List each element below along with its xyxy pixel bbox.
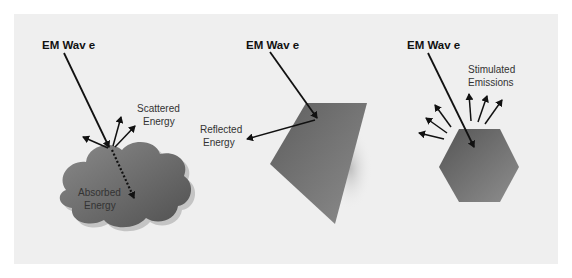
emission-arrow-4 [469,94,471,121]
stimulated-label-1: Stimulated [468,64,515,75]
stimulated-label-2: Emissions [468,77,514,88]
absorption-scattering-group: EM Wav e Scattered Energy Absorbed Energ… [42,39,195,231]
emission-arrow-6 [485,100,502,124]
incident-wave-arrow [64,53,109,147]
absorbed-label-1: Absorbed [78,187,121,198]
incident-label: EM Wav e [407,39,460,51]
emission-arrow-3 [435,105,451,127]
emission-arrow-2 [426,118,447,133]
scattered-label-2: Energy [143,116,175,127]
cloud-icon [60,142,191,227]
emission-arrow-1 [419,133,444,139]
absorbed-label-2: Energy [84,200,116,211]
em-interaction-diagram: EM Wav e Scattered Energy Absorbed Energ… [0,0,572,278]
incident-label: EM Wav e [246,39,299,51]
scattered-label-1: Scattered [137,103,180,114]
incident-label: EM Wav e [42,39,95,51]
incident-wave-arrow [270,52,317,118]
reflection-group: EM Wav e Reflected Energy [200,39,372,224]
reflected-label-1: Reflected [200,124,242,135]
hexagon-icon [439,129,519,202]
reflected-label-2: Energy [203,137,235,148]
emission-group: EM Wav e Stimulated Emissions [407,39,519,202]
emission-arrow-5 [478,96,487,122]
